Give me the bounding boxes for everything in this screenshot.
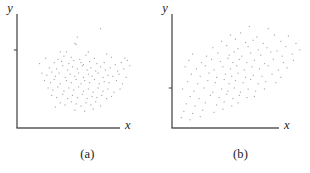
- data-point: [241, 56, 242, 57]
- data-point: [280, 77, 281, 78]
- data-point: [183, 111, 184, 112]
- data-point: [256, 37, 257, 38]
- data-point: [186, 103, 187, 104]
- data-point: [60, 102, 61, 103]
- data-point: [52, 90, 53, 91]
- data-point: [57, 86, 58, 87]
- data-point: [182, 88, 183, 89]
- data-point: [67, 98, 68, 99]
- data-point: [101, 95, 102, 96]
- data-point: [224, 79, 225, 80]
- data-point: [116, 80, 117, 81]
- data-point: [212, 92, 213, 93]
- data-point: [73, 60, 74, 61]
- data-point: [185, 66, 186, 67]
- data-point: [44, 80, 45, 81]
- data-point: [107, 75, 108, 76]
- data-point: [98, 87, 99, 88]
- data-point: [192, 113, 193, 114]
- data-point: [71, 57, 72, 58]
- data-point: [268, 28, 269, 29]
- data-point: [231, 76, 232, 77]
- data-point: [203, 87, 204, 88]
- data-point: [250, 79, 251, 80]
- data-point: [72, 66, 73, 67]
- data-point: [82, 94, 83, 95]
- data-point: [112, 76, 113, 77]
- data-point: [240, 32, 241, 33]
- data-point: [251, 66, 252, 67]
- data-point: [211, 59, 212, 60]
- data-point: [60, 83, 61, 84]
- data-point: [102, 91, 103, 92]
- data-point: [41, 73, 42, 74]
- data-point: [56, 68, 57, 69]
- data-point: [104, 81, 105, 82]
- scatter-plot-a: yx: [0, 0, 155, 145]
- data-point: [89, 82, 90, 83]
- data-point: [190, 119, 191, 120]
- data-point: [55, 106, 56, 107]
- data-point: [222, 109, 223, 110]
- data-point: [232, 62, 233, 63]
- data-point: [268, 65, 269, 66]
- data-point: [67, 69, 68, 70]
- data-point: [227, 91, 228, 92]
- data-point: [87, 69, 88, 70]
- data-point: [110, 67, 111, 68]
- data-point: [54, 79, 55, 80]
- data-point: [106, 98, 107, 99]
- data-point: [93, 92, 94, 93]
- data-point: [79, 59, 80, 60]
- data-point: [264, 88, 265, 89]
- data-point: [255, 91, 256, 92]
- data-point: [235, 39, 236, 40]
- data-point: [68, 87, 69, 88]
- data-point: [202, 110, 203, 111]
- data-point: [122, 83, 123, 84]
- data-point: [226, 45, 227, 46]
- data-point: [74, 76, 75, 77]
- panel-b-caption: (b): [152, 146, 307, 162]
- data-point: [246, 97, 247, 98]
- data-point: [208, 73, 209, 74]
- data-point: [244, 69, 245, 70]
- data-point: [222, 66, 223, 67]
- data-point: [51, 95, 52, 96]
- data-point: [55, 76, 56, 77]
- data-point: [229, 55, 230, 56]
- data-point: [217, 52, 218, 53]
- data-point: [225, 74, 226, 75]
- data-point: [99, 83, 100, 84]
- data-point: [237, 102, 238, 103]
- panel-a: yx (a): [0, 0, 155, 173]
- data-point: [84, 80, 85, 81]
- data-point: [246, 62, 247, 63]
- data-points: [39, 28, 130, 112]
- data-point: [87, 98, 88, 99]
- data-point: [234, 51, 235, 52]
- data-point: [265, 81, 266, 82]
- data-point: [95, 70, 96, 71]
- data-point: [76, 79, 77, 80]
- data-point: [82, 65, 83, 66]
- data-point: [45, 58, 46, 59]
- data-points: [181, 26, 301, 120]
- data-point: [230, 68, 231, 69]
- data-point: [287, 67, 288, 68]
- data-point: [113, 92, 114, 93]
- data-point: [124, 58, 125, 59]
- data-point: [77, 68, 78, 69]
- data-point: [62, 94, 63, 95]
- data-point: [117, 70, 118, 71]
- data-point: [105, 69, 106, 70]
- data-point: [100, 105, 101, 106]
- data-point: [264, 63, 265, 64]
- data-point: [77, 37, 78, 38]
- data-point: [104, 62, 105, 63]
- data-point: [48, 87, 49, 88]
- data-point: [232, 98, 233, 99]
- data-point: [273, 59, 274, 60]
- data-point: [293, 60, 294, 61]
- data-point: [292, 53, 293, 54]
